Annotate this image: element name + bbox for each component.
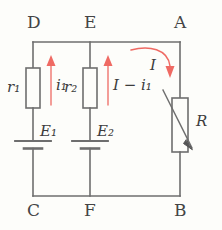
current-label-I: I — [150, 58, 156, 73]
resistor-2-body — [83, 68, 97, 108]
current-arrow-I-head — [166, 66, 175, 78]
node-label-C: C — [27, 202, 40, 219]
node-label-F: F — [84, 202, 96, 219]
resistor-1-label: r₁ — [7, 80, 20, 95]
current-arrow-i1-head — [47, 55, 56, 66]
rheostat-label: R — [196, 114, 207, 129]
resistor-1-body — [26, 68, 40, 108]
current-label-I-minus-i1: I − i₁ — [113, 78, 152, 93]
circuit-schematic-svg — [0, 0, 222, 230]
node-label-B: B — [174, 202, 187, 219]
current-label-i1: i₁ — [56, 78, 67, 93]
circuit-diagram: D E A C F B r₁ r₂ E₁ E₂ R i₁ I − i₁ I — [0, 0, 222, 230]
battery-2-label: E₂ — [97, 124, 114, 139]
node-label-E: E — [84, 14, 96, 31]
node-label-A: A — [174, 14, 186, 31]
battery-1-label: E₁ — [40, 124, 57, 139]
current-arrow-i2-head — [104, 55, 113, 66]
node-label-D: D — [27, 14, 41, 31]
